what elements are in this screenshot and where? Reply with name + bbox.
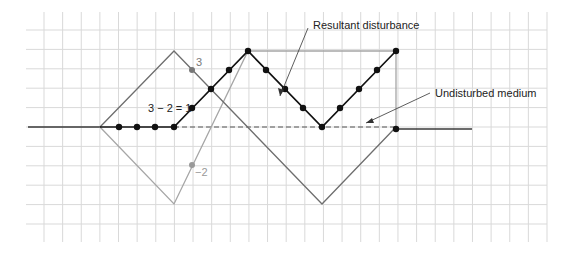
superposition-diagram: 3 −2 3 − 2 = 1 Resultant disturbance Und… <box>0 0 586 256</box>
sum-equation-label: 3 − 2 = 1 <box>148 102 191 114</box>
resultant-point <box>116 124 122 130</box>
undisturbed-arrowhead-icon <box>366 118 374 123</box>
negative-value-label: −2 <box>195 166 208 178</box>
resultant-disturbance-line <box>100 51 396 127</box>
resultant-disturbance-label: Resultant disturbance <box>313 19 419 31</box>
resultant-point <box>226 67 232 73</box>
resultant-point <box>319 124 325 130</box>
resultant-point <box>171 124 177 130</box>
resultant-point <box>245 48 251 54</box>
positive-sample-point <box>189 67 195 73</box>
resultant-point <box>208 86 214 92</box>
resultant-point <box>374 67 380 73</box>
resultant-point <box>337 105 343 111</box>
resultant-point <box>152 124 158 130</box>
resultant-point <box>134 124 140 130</box>
positive-value-label: 3 <box>196 56 202 68</box>
resultant-point <box>356 86 362 92</box>
resultant-point <box>393 48 399 54</box>
resultant-point <box>393 126 399 132</box>
resultant-point <box>300 105 306 111</box>
resultant-pointer-line <box>280 28 308 96</box>
undisturbed-medium-label: Undisturbed medium <box>435 87 537 99</box>
resultant-point <box>263 67 269 73</box>
